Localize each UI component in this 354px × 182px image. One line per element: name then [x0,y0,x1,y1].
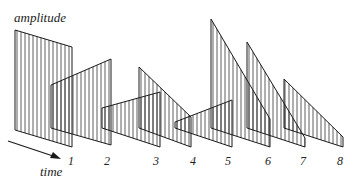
frame-number-5: 5 [225,154,231,168]
frame-number-2: 2 [104,154,110,168]
frame-number-8: 8 [337,154,343,168]
time-axis-label: time [40,164,63,179]
frame-numbers: 12345678 [68,154,343,168]
frame-number-7: 7 [300,154,307,168]
frame-number-6: 6 [265,154,271,168]
frame-number-3: 3 [152,154,159,168]
frames-group [15,19,343,147]
waveform-frames-diagram: amplitude time 12345678 [0,0,354,182]
frame-number-4: 4 [190,154,196,168]
frame-number-1: 1 [68,154,74,168]
time-arrow-icon [8,141,61,159]
amplitude-axis-label: amplitude [14,10,66,25]
